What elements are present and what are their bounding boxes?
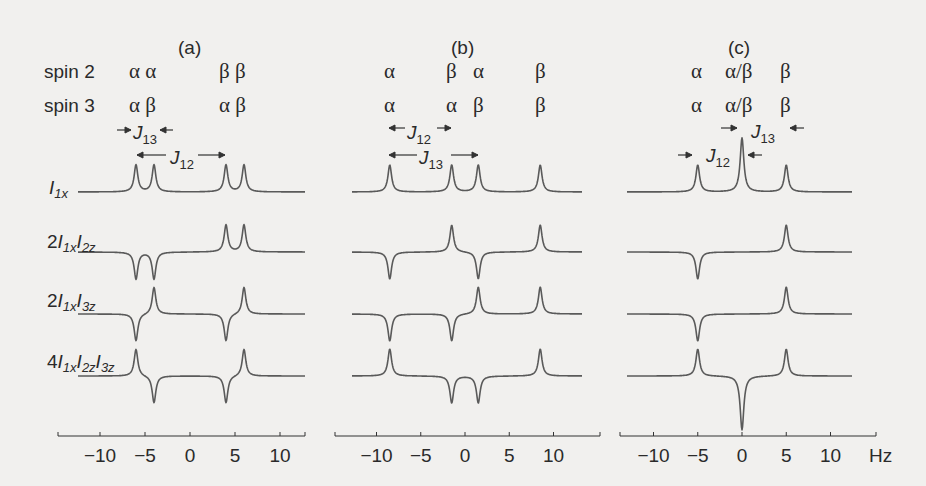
spin2-state-c-3: β	[780, 61, 791, 82]
spin2-state-b-3: α	[473, 61, 484, 82]
j13-label-c: J13	[751, 122, 775, 145]
spin2-state-c-1: α	[691, 61, 702, 82]
spin3-state-c-3: β	[780, 95, 791, 116]
axis-tick-label: −10	[637, 446, 669, 465]
axis-tick-label: 0	[737, 446, 748, 465]
row-label-spin2: spin 2	[44, 62, 95, 81]
spectrum-b-4I1xI2zI3z	[352, 349, 582, 403]
row-label-2I1xI2z: 2I1xI2z	[47, 232, 96, 254]
axis-tick-label: 5	[781, 446, 792, 465]
axis-tick-label: 10	[820, 446, 841, 465]
panel-title-a: (a)	[178, 38, 201, 57]
spin3-state-b-3: β	[473, 95, 484, 116]
spectrum-c-2I1xI3z	[627, 287, 852, 340]
axis-tick-label: −5	[410, 446, 432, 465]
spin3-state-b-2: α	[446, 95, 457, 116]
j12-label-b: J12	[407, 123, 431, 146]
axis-tick-label: 5	[504, 446, 515, 465]
spectrum-b-2I1xI3z	[352, 287, 582, 340]
row-label-2I1xI3z: 2I1xI3z	[47, 291, 96, 313]
spin2-state-b-1: α	[384, 61, 395, 82]
spectrum-b-2I1xI2z	[352, 225, 582, 278]
spectrum-c-I1x	[627, 138, 852, 192]
spectrum-c-2I1xI2z	[627, 225, 852, 278]
j13-label-b: J13	[419, 148, 443, 171]
spin2-state-c-2: α/β	[725, 61, 753, 82]
spin3-state-c-2: α/β	[725, 95, 753, 116]
spin2-state-a-2: β β	[219, 61, 246, 82]
axis-tick-label: 5	[230, 446, 241, 465]
axis-tick-label: 0	[185, 446, 196, 465]
spectrum-a-2I1xI2z	[78, 225, 305, 280]
axis-tick-label: −5	[687, 446, 709, 465]
spin3-state-a-2: α β	[219, 95, 246, 116]
nmr-multiplet-figure: (a) (b) (c) spin 2 spin 3 α α β β α β α …	[0, 0, 926, 486]
spin3-state-b-1: α	[384, 95, 395, 116]
spin3-state-c-1: α	[691, 95, 702, 116]
j13-label-a: J13	[133, 123, 157, 146]
spectrum-b-I1x	[352, 165, 582, 192]
spin2-state-b-2: β	[446, 61, 457, 82]
row-label-I1x: I1x	[49, 178, 68, 200]
j12-label-a: J12	[170, 148, 194, 171]
spectrum-c-4I1xI2zI3z	[627, 350, 852, 430]
axis-tick-label: 10	[269, 446, 290, 465]
axis-tick-label: −10	[360, 446, 392, 465]
spin2-state-a-1: α α	[129, 61, 156, 82]
row-label-spin3: spin 3	[44, 96, 95, 115]
axis-tick-label: −5	[134, 446, 156, 465]
axis-tick-label: −10	[84, 446, 116, 465]
axis-tick-label: 10	[543, 446, 564, 465]
axis-tick-label: 0	[460, 446, 471, 465]
spin2-state-b-4: β	[535, 61, 546, 82]
panel-title-b: (b)	[451, 38, 474, 57]
spectrum-a-2I1xI3z	[78, 287, 305, 340]
j12-label-c: J12	[706, 146, 730, 169]
spin3-state-a-1: α β	[129, 95, 156, 116]
row-label-4I1xI2zI3z: 4I1xI2zI3z	[47, 352, 115, 374]
axis-unit-label: Hz	[869, 446, 892, 465]
spin3-state-b-4: β	[535, 95, 546, 116]
panel-title-c: (c)	[728, 38, 750, 57]
